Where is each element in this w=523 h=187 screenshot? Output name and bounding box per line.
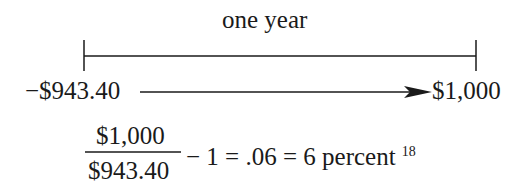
equation-result: − 1 = .06 = 6 percent 18	[186, 144, 416, 169]
end-value: $1,000	[432, 78, 501, 103]
fraction-denominator: $943.40	[88, 158, 169, 183]
equation-rest: − 1 = .06 = 6 percent	[186, 143, 396, 170]
start-value: −$943.40	[25, 78, 120, 103]
footnote-marker: 18	[402, 144, 416, 159]
fraction-numerator: $1,000	[96, 123, 165, 148]
period-label: one year	[222, 7, 307, 32]
